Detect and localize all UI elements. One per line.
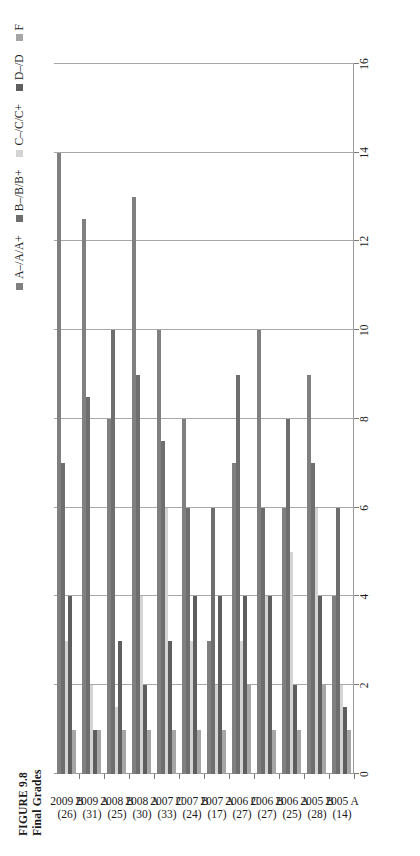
legend-swatch-icon <box>16 215 23 222</box>
value-axis-tick-label: 12 <box>358 236 370 248</box>
plot-area: 0246810121416 2005 A(14)2005 B(28)2006 A… <box>54 64 354 774</box>
category-label: 2009 B(26) <box>50 795 84 821</box>
legend-label: A–/A/A+ <box>14 235 25 279</box>
category-tick <box>229 774 230 779</box>
bar <box>297 730 301 774</box>
value-axis-tick-label: 16 <box>358 58 370 70</box>
legend-label: D–/D <box>14 54 25 80</box>
category-tick <box>304 774 305 779</box>
category-tick <box>129 774 130 779</box>
bar <box>197 730 201 774</box>
legend-label: F <box>14 24 25 30</box>
category-tick <box>104 774 105 779</box>
figure-number: FIGURE 9.8 <box>16 769 30 836</box>
bar <box>122 730 126 774</box>
value-axis-tick-label: 10 <box>358 325 370 337</box>
category-count: (26) <box>50 808 84 821</box>
category-tick <box>154 774 155 779</box>
category-tick <box>79 774 80 779</box>
gridline <box>54 329 354 330</box>
legend-label: B–/B/B+ <box>14 170 25 212</box>
bar <box>72 730 76 774</box>
legend-item: F <box>14 24 25 41</box>
category-tick <box>329 774 330 779</box>
bar <box>222 730 226 774</box>
bar <box>347 730 351 774</box>
chart-legend: A–/A/A+B–/B/B+C–/C/C+D–/DF <box>14 24 25 290</box>
category-tick <box>204 774 205 779</box>
legend-label: C–/C/C+ <box>14 104 25 146</box>
category-tick <box>179 774 180 779</box>
category-name: 2009 B <box>50 795 84 808</box>
bar <box>322 685 326 774</box>
legend-item: C–/C/C+ <box>14 104 25 157</box>
legend-swatch-icon <box>16 283 23 290</box>
value-axis-tick-label: 4 <box>358 594 370 600</box>
rotated-figure-container: FIGURE 9.8 Final Grades A–/A/A+B–/B/B+C–… <box>10 18 410 838</box>
value-axis-tick-label: 6 <box>358 505 370 511</box>
figure-page: FIGURE 9.8 Final Grades A–/A/A+B–/B/B+C–… <box>0 0 420 856</box>
gridline <box>54 241 354 242</box>
legend-item: A–/A/A+ <box>14 235 25 290</box>
gridline <box>54 63 354 64</box>
gridline <box>54 152 354 153</box>
legend-item: D–/D <box>14 54 25 91</box>
figure-caption: FIGURE 9.8 Final Grades <box>16 769 44 836</box>
bar <box>272 730 276 774</box>
legend-swatch-icon <box>16 34 23 41</box>
bar <box>97 730 101 774</box>
figure-title: Final Grades <box>30 769 44 836</box>
legend-swatch-icon <box>16 84 23 91</box>
bar <box>247 685 251 774</box>
legend-swatch-icon <box>16 150 23 157</box>
bar <box>147 730 151 774</box>
value-axis-tick-label: 14 <box>358 147 370 159</box>
category-tick <box>254 774 255 779</box>
category-tick <box>354 774 355 779</box>
legend-item: B–/B/B+ <box>14 170 25 223</box>
bar <box>172 730 176 774</box>
value-axis-tick-label: 8 <box>358 416 370 422</box>
value-axis-tick-label: 2 <box>358 682 370 688</box>
value-axis-tick-label: 0 <box>358 771 370 777</box>
category-tick <box>279 774 280 779</box>
